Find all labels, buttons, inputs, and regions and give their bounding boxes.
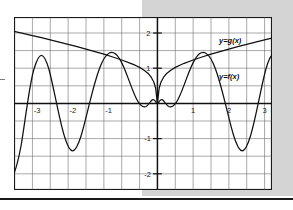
graph-figure: -3 -2 -1 1 2 3 2 1 -1 -2 y=g(x) y=f(x) (14, 17, 272, 190)
bottom-divider-rule (0, 198, 293, 200)
y-tick-label-2: 2 (146, 29, 150, 38)
page-canvas: -3 -2 -1 1 2 3 2 1 -1 -2 y=g(x) y=f(x) (0, 0, 293, 210)
x-tick-label-neg1: -1 (105, 106, 112, 115)
x-tick-label-1: 1 (191, 106, 195, 115)
left-margin-mark (0, 79, 5, 80)
x-tick-label-3: 3 (263, 106, 267, 115)
y-tick-label-neg2: -2 (144, 170, 151, 179)
y-tick-label-1: 1 (146, 64, 150, 73)
x-tick-label-2: 2 (227, 106, 231, 115)
x-tick-label-neg3: -3 (34, 106, 41, 115)
graph-svg: -3 -2 -1 1 2 3 2 1 -1 -2 y=g(x) y=f(x) (14, 17, 272, 190)
y-tick-label-neg1: -1 (144, 134, 151, 143)
curve-label-f: y=f(x) (218, 72, 240, 81)
x-tick-label-neg2: -2 (69, 106, 76, 115)
curve-label-g: y=g(x) (218, 36, 242, 45)
